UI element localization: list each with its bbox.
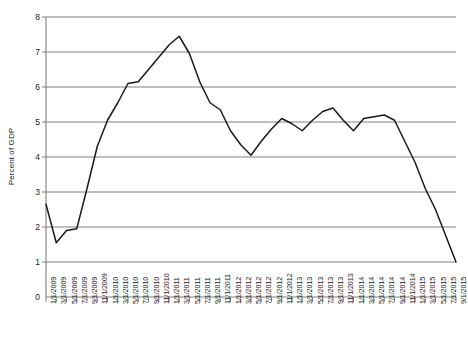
y-axis-tick-label: 4	[18, 152, 40, 162]
x-axis-tick-label: 1/1/2009	[49, 277, 58, 304]
y-axis-tick-label: 6	[18, 82, 40, 92]
plot-area	[0, 0, 468, 362]
y-axis-tick-label: 3	[18, 187, 40, 197]
x-axis-tick-label: 9/1/2011	[213, 277, 222, 304]
x-axis-tick-label: 9/1/2009	[90, 277, 99, 304]
x-axis-tick-label: 1/1/2010	[111, 277, 120, 304]
y-axis-tick-label: 1	[18, 257, 40, 267]
x-axis-tick-label: 11/1/2009	[100, 273, 109, 304]
y-axis-tick-label: 7	[18, 47, 40, 57]
data-series-line	[46, 36, 456, 262]
y-axis-tick-label: 8	[18, 12, 40, 22]
x-axis-tick-label: 9/1/2012	[275, 277, 284, 304]
x-axis-tick-label: 11/1/2012	[285, 273, 294, 304]
y-axis-tick-label: 2	[18, 222, 40, 232]
x-axis-tick-label: 3/1/2013	[305, 277, 314, 304]
x-axis-tick-label: 11/1/2011	[223, 274, 232, 304]
x-axis-tick-label: 5/1/2014	[377, 277, 386, 304]
x-axis-tick-label: 7/1/2010	[141, 277, 150, 304]
x-axis-tick-label: 9/1/2013	[336, 277, 345, 304]
x-axis-tick-label: 11/1/2010	[162, 273, 171, 304]
x-axis-tick-label: 3/1/2015	[428, 277, 437, 304]
x-axis-tick-label: 5/1/2012	[254, 277, 263, 304]
x-axis-tick-label: 5/1/2015	[439, 277, 448, 304]
x-axis-tick-label: 1/1/2014	[357, 277, 366, 304]
x-axis-tick-label: 7/1/2011	[203, 277, 212, 304]
y-axis-tick-label: 5	[18, 117, 40, 127]
x-axis-tick-label: 5/1/2010	[131, 277, 140, 304]
x-axis-tick-label: 7/1/2009	[80, 277, 89, 304]
x-axis-tick-label: 1/1/2015	[418, 277, 427, 304]
x-axis-tick-label: 3/1/2009	[59, 277, 68, 304]
x-axis-tick-label: 9/1/2014	[398, 277, 407, 304]
x-axis-tick-label: 3/1/2010	[121, 277, 130, 304]
x-axis-tick-label: 9/1/2015	[459, 277, 468, 304]
x-axis-tick-label: 11/1/2014	[408, 273, 417, 304]
x-axis-tick-label: 5/1/2009	[70, 277, 79, 304]
x-axis-tick-label: 3/1/2011	[182, 277, 191, 304]
x-axis-tick-label: 9/1/2010	[152, 277, 161, 304]
x-axis-tick-label: 7/1/2014	[387, 277, 396, 304]
x-axis-tick-label: 7/1/2015	[449, 277, 458, 304]
x-axis-tick-label: 7/1/2012	[264, 277, 273, 304]
x-axis-tick-label: 1/1/2013	[295, 277, 304, 304]
x-axis-tick-label: 7/1/2013	[326, 277, 335, 304]
x-axis-tick-label: 3/1/2012	[244, 277, 253, 304]
chart-container: Percent of GDP 012345678 1/1/20093/1/200…	[0, 0, 468, 362]
gridlines-group	[42, 17, 456, 262]
x-axis-tick-label: 3/1/2014	[367, 277, 376, 304]
x-axis-tick-label: 1/1/2012	[234, 277, 243, 304]
x-axis-tick-label: 5/1/2013	[316, 277, 325, 304]
x-axis-tick-label: 5/1/2011	[193, 277, 202, 304]
y-axis-tick-label: 0	[18, 292, 40, 302]
x-axis-tick-label: 11/1/2013	[346, 273, 355, 304]
x-axis-tick-label: 1/1/2011	[172, 277, 181, 304]
